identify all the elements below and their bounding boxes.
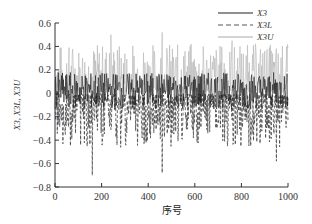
x-tick-label: 800 [234,191,249,202]
legend-label-x3l: X3L [256,20,272,30]
y-tick-label: 0 [46,88,51,99]
x-tick-label: 600 [187,191,202,202]
legend-label-x3u: X3U [256,32,274,42]
line-chart: 0.60.40.20−0.2−0.4−0.6−0.8 0200400600800… [0,0,312,224]
x-axis-label: 序号 [162,204,182,216]
legend: X3 X3L X3U [218,8,274,42]
x-tick-label: 400 [141,191,156,202]
y-axis-label: X3, X3L, X3U [12,79,22,131]
y-tick-label: 0.6 [39,18,52,29]
x-ticks: 02004006008001000 [53,183,299,202]
y-tick-label: −0.2 [33,111,51,122]
x-tick-label: 0 [53,191,58,202]
y-tick-label: 0.4 [39,41,52,52]
y-tick-label: −0.6 [33,158,51,169]
legend-label-x3: X3 [256,8,267,18]
x-tick-label: 200 [94,191,109,202]
y-tick-label: 0.2 [39,64,52,75]
series-layer [55,32,288,175]
series-x3l [55,93,288,175]
y-tick-label: −0.8 [33,182,51,193]
y-tick-label: −0.4 [33,135,51,146]
x-tick-label: 1000 [278,191,298,202]
